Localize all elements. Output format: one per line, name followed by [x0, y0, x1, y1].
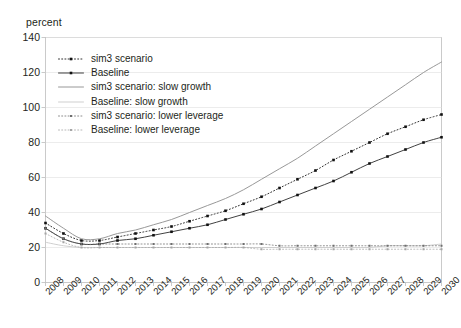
series-marker	[440, 113, 443, 116]
series-marker	[189, 243, 191, 245]
series-marker	[441, 248, 443, 250]
series-marker	[404, 148, 407, 151]
series-marker	[278, 201, 281, 204]
legend-marker	[70, 129, 72, 131]
legend-item[interactable]: sim3 scenario: slow growth	[58, 80, 223, 94]
series-marker	[189, 247, 191, 249]
series-marker	[369, 245, 371, 247]
series-marker	[351, 245, 353, 247]
series-marker	[260, 208, 263, 211]
series-marker	[98, 239, 101, 242]
series-marker	[333, 248, 335, 250]
series-marker	[368, 162, 371, 165]
series-marker	[81, 243, 83, 245]
legend-item[interactable]: Baseline	[58, 66, 223, 80]
series-marker	[422, 118, 425, 121]
series-marker	[242, 213, 245, 216]
series-marker	[422, 141, 425, 144]
series-marker	[135, 247, 137, 249]
legend-label: Baseline: lower leverage	[91, 123, 200, 137]
series-marker	[297, 245, 299, 247]
series-marker	[350, 150, 353, 153]
series-marker	[279, 248, 281, 250]
legend-item[interactable]: Baseline: lower leverage	[58, 123, 223, 137]
legend-item[interactable]: sim3 scenario: lower leverage	[58, 109, 223, 123]
series-marker	[296, 194, 299, 197]
series-marker	[369, 248, 371, 250]
legend-item[interactable]: Baseline: slow growth	[58, 95, 223, 109]
legend-label: Baseline	[91, 66, 129, 80]
series-marker	[134, 237, 137, 240]
series-marker	[315, 245, 317, 247]
series-marker	[404, 125, 407, 128]
series-marker	[153, 247, 155, 249]
series-marker	[405, 245, 407, 247]
series-marker	[188, 220, 191, 223]
series-marker	[171, 243, 173, 245]
chart-legend: sim3 scenarioBaselinesim3 scenario: slow…	[58, 52, 223, 137]
series-marker	[224, 209, 227, 212]
series-marker	[206, 223, 209, 226]
series-marker	[441, 245, 443, 247]
series-marker	[387, 245, 389, 247]
series-marker	[63, 241, 65, 243]
series-marker	[242, 202, 245, 205]
series-marker	[152, 234, 155, 237]
legend-item[interactable]: sim3 scenario	[58, 52, 223, 66]
series-marker	[368, 141, 371, 144]
series-marker	[243, 247, 245, 249]
series-marker	[261, 248, 263, 250]
series-marker	[314, 187, 317, 190]
series-marker	[170, 230, 173, 233]
series-marker	[44, 222, 47, 225]
series-marker	[279, 245, 281, 247]
series-marker	[206, 215, 209, 218]
series-marker	[135, 243, 137, 245]
series-marker	[350, 171, 353, 174]
series-marker	[171, 247, 173, 249]
series-marker	[423, 248, 425, 250]
legend-swatch-icon	[58, 82, 84, 92]
legend-label: sim3 scenario	[91, 52, 153, 66]
legend-label: Baseline: slow growth	[91, 95, 188, 109]
series-marker	[116, 239, 119, 242]
series-marker	[224, 218, 227, 221]
legend-swatch-icon	[58, 68, 84, 78]
series-marker	[278, 187, 281, 190]
series-marker	[386, 132, 389, 135]
series-marker	[99, 247, 101, 249]
legend-swatch-icon	[58, 111, 84, 121]
series-marker	[63, 238, 65, 240]
legend-swatch-icon	[58, 54, 84, 64]
series-marker	[423, 245, 425, 247]
legend-marker	[70, 115, 72, 117]
series-marker	[207, 243, 209, 245]
legend-label: sim3 scenario: slow growth	[91, 80, 211, 94]
series-marker	[261, 243, 263, 245]
series-marker	[117, 247, 119, 249]
series-marker	[332, 180, 335, 183]
series-marker	[225, 243, 227, 245]
series-marker	[225, 247, 227, 249]
series-marker	[440, 136, 443, 139]
series-marker	[45, 233, 47, 235]
series-marker	[153, 243, 155, 245]
series-marker	[314, 169, 317, 172]
series-4	[45, 227, 443, 247]
series-marker	[387, 248, 389, 250]
series-marker	[260, 195, 263, 198]
series-marker	[188, 227, 191, 230]
series-marker	[62, 232, 65, 235]
series-marker	[297, 248, 299, 250]
series-line	[46, 137, 442, 244]
series-marker	[45, 227, 47, 229]
series-marker	[207, 247, 209, 249]
series-marker	[117, 243, 119, 245]
legend-swatch-icon	[58, 125, 84, 135]
legend-marker	[70, 58, 73, 61]
legend-swatch-icon	[58, 97, 84, 107]
series-marker	[134, 232, 137, 235]
series-marker	[386, 155, 389, 158]
